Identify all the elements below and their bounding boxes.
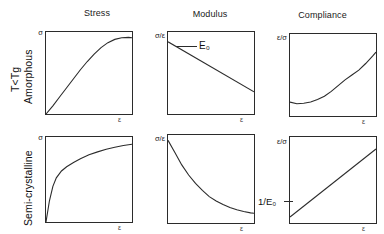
column-header-compliance: Compliance (265, 10, 380, 20)
curve-modulus-amorphous (168, 32, 254, 114)
curve-stress-semicrystalline (46, 137, 132, 222)
x-axis-label-stress-amorphous: ε (118, 116, 121, 123)
y-axis-label-compliance-amorphous: ε/σ (263, 33, 287, 42)
y-axis-label-stress-semicrystalline: σ (26, 133, 43, 142)
e0-leader-line (176, 46, 197, 47)
mechanical-properties-figure: Stress Modulus Compliance T<Tg Amorphous… (0, 0, 384, 234)
row-label-temperature: T<Tg (9, 67, 21, 92)
inverse-e0-leader-line (284, 201, 293, 202)
x-axis-label-compliance-semicrystalline: ε (362, 225, 365, 232)
plot-stress-semicrystalline (45, 136, 133, 223)
plot-modulus-amorphous (167, 31, 255, 115)
x-axis-label-stress-semicrystalline: ε (118, 224, 121, 231)
annotation-e0: E₀ (199, 40, 210, 51)
x-axis-label-modulus-semicrystalline: ε (240, 225, 243, 232)
column-header-stress: Stress (42, 8, 152, 18)
y-axis-label-compliance-semicrystalline: ε/σ (263, 137, 287, 146)
plot-stress-amorphous (45, 31, 133, 115)
y-axis-label-modulus-semicrystalline: σ/ε (140, 134, 165, 143)
curve-modulus-semicrystalline (168, 135, 254, 223)
plot-compliance-amorphous (289, 33, 377, 117)
y-axis-label-modulus-amorphous: σ/ε (140, 31, 165, 40)
plot-modulus-semicrystalline (167, 134, 255, 224)
row-label-semi-crystalline: Semi-crystalline (22, 150, 34, 226)
curve-compliance-semicrystalline (290, 137, 376, 223)
x-axis-label-compliance-amorphous: ε (362, 118, 365, 125)
plot-compliance-semicrystalline (289, 136, 377, 224)
column-header-modulus: Modulus (155, 9, 265, 19)
row-label-amorphous: Amorphous (22, 49, 34, 104)
x-axis-label-modulus-amorphous: ε (240, 116, 243, 123)
curve-stress-amorphous (46, 32, 132, 114)
annotation-inverse-e0: 1/E₀ (258, 196, 276, 207)
curve-compliance-amorphous (290, 34, 376, 116)
y-axis-label-stress-amorphous: σ (26, 28, 43, 37)
